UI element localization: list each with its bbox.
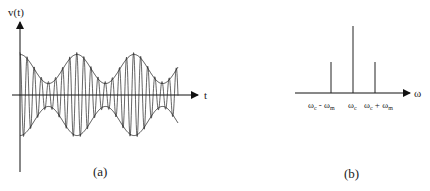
figure-canvas: v(t) t (a) ω ωc - ωm ωc ωc + ωm (b) (0, 0, 430, 191)
tick-label-carrier: ωc (348, 100, 357, 111)
lower-envelope (20, 106, 178, 135)
omega-axis-label: ω (414, 87, 421, 99)
t-axis-label: t (204, 89, 207, 101)
v-axis-label: v(t) (8, 6, 24, 19)
carrier-wave (20, 52, 178, 136)
tick-label-lower-sideband: ωc - ωm (308, 100, 335, 111)
panel-b-spectrum: ω ωc - ωm ωc ωc + ωm (b) (295, 26, 421, 181)
tick-label-upper-sideband: ωc + ωm (364, 100, 393, 111)
caption-a: (a) (93, 164, 107, 179)
panel-a-waveform: v(t) t (a) (8, 6, 207, 179)
am-signal (20, 52, 178, 136)
caption-b: (b) (344, 166, 359, 181)
